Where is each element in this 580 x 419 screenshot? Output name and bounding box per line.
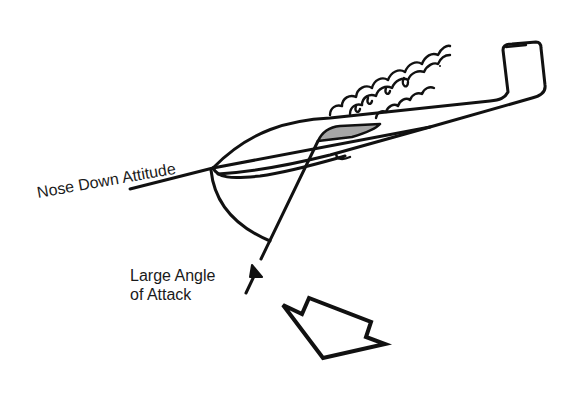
glider-stall-diagram: Nose Down Attitude Large Angle of Attack [0,0,580,419]
glider-fuselage [213,42,545,177]
relative-wind-arrow [246,265,262,293]
block-arrow [283,298,385,358]
angle-arc [211,170,270,241]
angle-label-line2: of Attack [130,286,192,303]
attitude-label: Nose Down Attitude [36,160,177,201]
angle-label-line1: Large Angle [130,267,216,284]
